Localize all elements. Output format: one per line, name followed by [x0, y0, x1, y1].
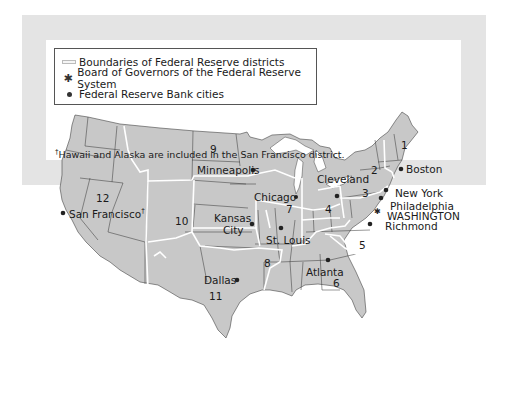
district-number-6: 6	[333, 278, 340, 289]
svg-text:✱: ✱	[374, 207, 381, 216]
district-number-2: 2	[371, 165, 378, 176]
district-number-4: 4	[325, 204, 332, 215]
boston-dot	[399, 167, 404, 172]
city-label-richmond: Richmond	[385, 221, 438, 232]
city-label-new-york: New York	[395, 188, 443, 199]
st-louis-dot	[279, 226, 284, 231]
san-francisco-dot	[61, 211, 66, 216]
city-label-minneapolis: Minneapolis	[197, 165, 260, 176]
city-label-dallas: Dallas	[204, 275, 236, 286]
washington-asterisk: ✱	[374, 207, 381, 216]
city-label-san-francisco: San Francisco†	[69, 208, 145, 219]
cleveland-dot	[335, 194, 340, 199]
philadelphia-dot	[379, 196, 384, 201]
district-number-1: 1	[401, 140, 408, 151]
footnote: †Hawaii and Alaska are included in the S…	[55, 148, 345, 160]
city-label-city: City	[223, 225, 244, 236]
dagger-mark: †	[141, 207, 145, 215]
city-label-chicago: Chicago	[254, 192, 296, 203]
district-number-3: 3	[362, 188, 369, 199]
district-number-8: 8	[264, 258, 271, 269]
city-label-atlanta: Atlanta	[306, 267, 344, 278]
city-label-kansas: Kansas	[214, 213, 251, 224]
new-york-dot	[384, 188, 389, 193]
district-number-10: 10	[175, 216, 188, 227]
city-label-st-louis: St. Louis	[266, 235, 311, 246]
district-number-5: 5	[359, 240, 366, 251]
city-label-boston: Boston	[406, 164, 442, 175]
district-number-12: 12	[96, 193, 109, 204]
richmond-dot	[368, 222, 373, 227]
district-number-11: 11	[209, 291, 222, 302]
city-label-cleveland: Cleveland	[317, 174, 369, 185]
atlanta-dot	[326, 258, 331, 263]
district-number-7: 7	[286, 204, 293, 215]
footnote-text: Hawaii and Alaska are included in the Sa…	[59, 149, 345, 160]
